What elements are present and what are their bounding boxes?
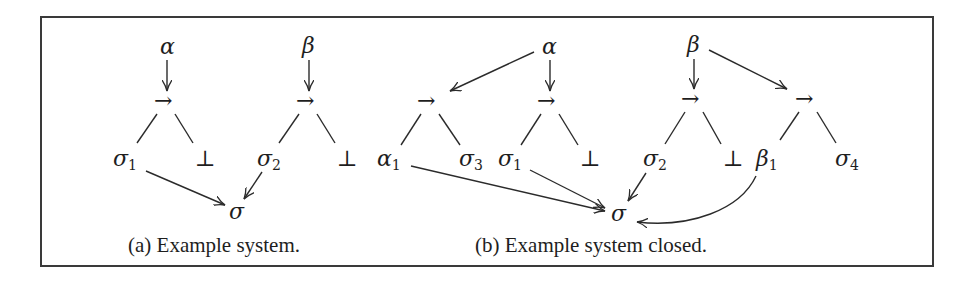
edge-beta1-sigma-curved (637, 176, 756, 223)
node-beta: β (686, 32, 700, 57)
node-alpha1: α1 (377, 146, 401, 173)
edge-arrow2-sigma2 (665, 112, 685, 144)
panel-a: α → σ1 ⊥ β → σ2 ⊥ σ (a) Example system. (113, 33, 358, 257)
node-sigma2: σ2 (257, 146, 281, 173)
edge-alpha-arrowA (450, 52, 534, 91)
edge-arrowA-sigma3 (439, 114, 460, 145)
node-sigma: σ (611, 201, 627, 226)
caption-a: (a) Example system. (128, 233, 300, 257)
node-bot1: ⊥ (580, 146, 601, 171)
node-bot1: ⊥ (195, 146, 216, 171)
node-bot2: ⊥ (337, 146, 358, 171)
caption-b: (b) Example system closed. (475, 233, 707, 257)
edge-sigma1-sigma (146, 171, 225, 205)
node-arrow2: → (681, 86, 699, 111)
node-arrow1: → (154, 88, 172, 113)
node-bot2: ⊥ (723, 146, 744, 171)
edge-arrow1-bot1 (559, 114, 578, 145)
figure: α → σ1 ⊥ β → σ2 ⊥ σ (a) Example system. … (0, 0, 975, 287)
edge-arrow1-bot1 (175, 114, 193, 143)
node-alpha: α (542, 34, 557, 59)
edge-arrow1-sigma1 (137, 114, 157, 143)
edge-arrowB-beta1 (780, 112, 799, 140)
edge-beta-arrowB (709, 50, 787, 89)
edge-alpha1-sigma (411, 166, 605, 211)
edge-arrowA-alpha1 (401, 114, 421, 145)
edge-arrow2-sigma2 (279, 114, 299, 143)
node-beta1: β1 (755, 146, 778, 173)
edge-arrow1-sigma1 (521, 114, 541, 145)
edge-arrowB-sigma4 (817, 112, 836, 143)
node-arrow1: → (537, 88, 555, 113)
node-sigma3: σ3 (459, 146, 483, 173)
node-alpha: α (160, 34, 175, 59)
edge-sigma2-sigma (628, 173, 646, 201)
node-beta: β (301, 33, 315, 58)
edge-arrow2-bot2 (703, 112, 721, 144)
panel-b: α → α1 σ3 → σ1 ⊥ β → σ2 ⊥ → β1 σ4 σ (b) … (377, 32, 859, 257)
edge-arrow2-bot2 (317, 114, 335, 143)
node-arrowA: → (417, 88, 435, 113)
node-arrowB: → (795, 86, 813, 111)
node-sigma2: σ2 (643, 146, 667, 173)
node-arrow2: → (296, 88, 314, 113)
node-sigma: σ (229, 199, 245, 224)
edge-sigma2-sigma (244, 172, 262, 199)
node-sigma1: σ1 (113, 146, 137, 173)
node-sigma1: σ1 (498, 146, 522, 173)
node-sigma4: σ4 (835, 146, 859, 173)
